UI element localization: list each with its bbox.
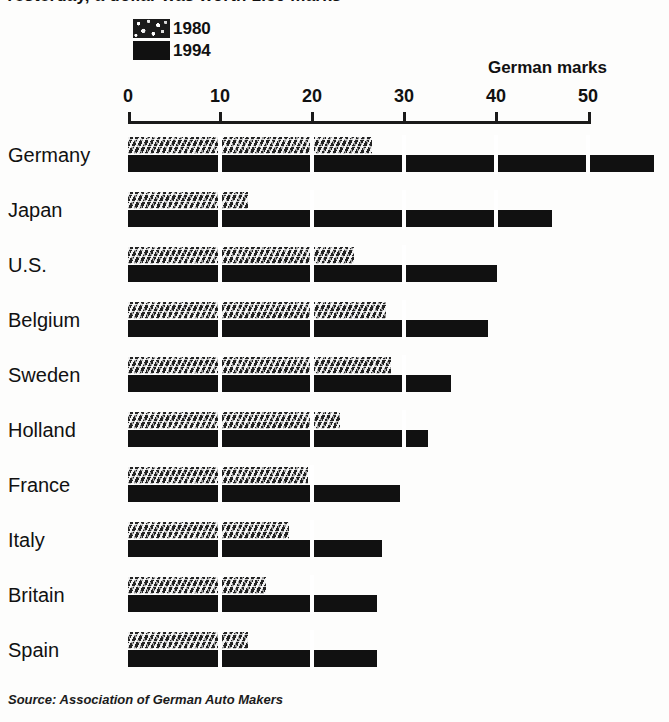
x-tick-label-0: 0 xyxy=(123,86,133,107)
chart-row: France xyxy=(0,462,669,517)
x-tick-label-10: 10 xyxy=(210,86,230,107)
bar-1980-france xyxy=(128,467,308,484)
bar-1994-france xyxy=(128,485,400,502)
row-bars-belgium xyxy=(0,297,669,352)
chart-row: Germany xyxy=(0,132,669,187)
row-bars-japan xyxy=(0,187,669,242)
x-axis-rule xyxy=(128,121,590,124)
axis-units-caption: German marks xyxy=(488,58,607,78)
legend-swatch-1980-icon xyxy=(133,19,170,38)
chart-row: Britain xyxy=(0,572,669,627)
page-title: Yesterday, a dollar was worth 1.50 marks xyxy=(0,0,669,6)
legend-item-1994: 1994 xyxy=(133,39,211,61)
row-bars-holland xyxy=(0,407,669,462)
bar-1980-sweden xyxy=(128,357,391,374)
legend-item-1980: 1980 xyxy=(133,17,211,39)
legend-swatch-1994-icon xyxy=(133,41,170,60)
chart-row: Italy xyxy=(0,517,669,572)
bar-1994-holland xyxy=(128,430,428,447)
chart-legend: 1980 1994 xyxy=(133,17,211,61)
x-axis-tick-20 xyxy=(311,112,314,123)
bar-1980-holland xyxy=(128,412,340,429)
bar-1980-us xyxy=(128,247,354,264)
x-axis-tick-50 xyxy=(588,112,591,124)
bar-1980-italy xyxy=(128,522,289,539)
row-bars-spain xyxy=(0,627,669,682)
x-axis-tick-0 xyxy=(128,112,131,124)
row-bars-britain xyxy=(0,572,669,627)
x-axis-tick-labels: 0 10 20 30 40 50 xyxy=(0,86,669,108)
source-caption: Source: Association of German Auto Maker… xyxy=(8,692,283,707)
legend-label-1994: 1994 xyxy=(173,41,211,60)
chart-row: Holland xyxy=(0,407,669,462)
bar-1994-us xyxy=(128,265,497,282)
x-axis-tick-40 xyxy=(495,112,498,123)
x-axis-line xyxy=(0,112,669,128)
bar-1980-spain xyxy=(128,632,248,649)
chart-plot-area: Germany Japan xyxy=(0,132,669,682)
row-bars-us xyxy=(0,242,669,297)
headline-clip: Yesterday, a dollar was worth 1.50 marks xyxy=(0,0,669,8)
legend-label-1980: 1980 xyxy=(173,19,211,38)
chart-row: Sweden xyxy=(0,352,669,407)
chart-row: Spain xyxy=(0,627,669,682)
chart-row: U.S. xyxy=(0,242,669,297)
bar-1994-japan xyxy=(128,210,552,227)
bar-1994-britain xyxy=(128,595,377,612)
x-tick-label-30: 30 xyxy=(394,86,414,107)
row-bars-sweden xyxy=(0,352,669,407)
bar-1980-britain xyxy=(128,577,266,594)
row-bars-france xyxy=(0,462,669,517)
chart-row: Belgium xyxy=(0,297,669,352)
chart-figure: Yesterday, a dollar was worth 1.50 marks… xyxy=(0,0,669,722)
bar-1980-japan xyxy=(128,192,248,209)
x-tick-label-50: 50 xyxy=(578,86,598,107)
bar-1994-italy xyxy=(128,540,382,557)
bar-1994-spain xyxy=(128,650,377,667)
bar-1994-belgium xyxy=(128,320,488,337)
row-bars-italy xyxy=(0,517,669,572)
chart-row: Japan xyxy=(0,187,669,242)
x-tick-label-20: 20 xyxy=(302,86,322,107)
bar-1994-germany xyxy=(128,155,654,172)
x-tick-label-40: 40 xyxy=(486,86,506,107)
row-bars-germany xyxy=(0,132,669,187)
bar-1980-belgium xyxy=(128,302,386,319)
x-axis-tick-10 xyxy=(219,112,222,123)
bar-1980-germany xyxy=(128,137,372,154)
bar-1994-sweden xyxy=(128,375,451,392)
x-axis-tick-30 xyxy=(403,112,406,123)
